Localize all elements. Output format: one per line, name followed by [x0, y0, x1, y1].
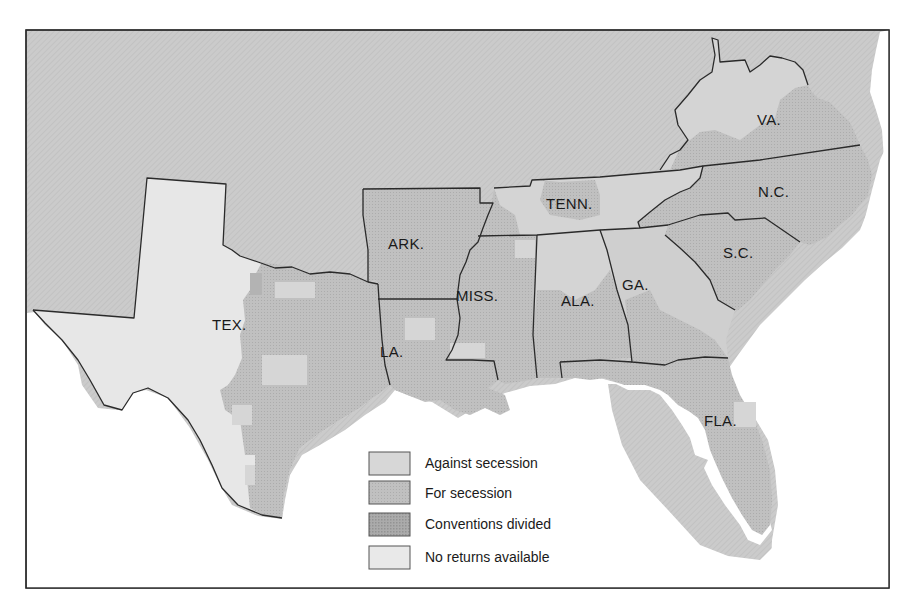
- label-tenn: TENN.: [546, 195, 593, 212]
- label-ala: ALA.: [561, 292, 595, 309]
- label-miss: MISS.: [456, 287, 498, 304]
- legend-swatch-no-returns: [369, 546, 410, 569]
- label-va: VA.: [757, 111, 781, 128]
- label-tex: TEX.: [212, 316, 247, 333]
- label-nc: N.C.: [758, 183, 789, 200]
- texas-against-patch: [245, 465, 255, 485]
- label-ga: GA.: [622, 276, 649, 293]
- label-sc: S.C.: [723, 244, 753, 261]
- legend-swatch-for: [369, 481, 410, 504]
- legend-swatch-against: [369, 452, 410, 475]
- louisiana-against-patch: [405, 318, 435, 340]
- legend-label-against: Against secession: [425, 455, 538, 471]
- label-la: LA.: [380, 343, 403, 360]
- secession-map: TEX. ARK. LA. MISS. ALA. TENN. GA. S.C. …: [0, 0, 917, 614]
- label-ark: ARK.: [388, 235, 424, 252]
- legend-label-divided: Conventions divided: [425, 516, 551, 532]
- legend-label-no-returns: No returns available: [425, 549, 550, 565]
- florida-against-patch: [734, 402, 756, 427]
- label-fla: FLA.: [704, 412, 737, 429]
- texas-against-patch: [262, 355, 307, 385]
- mississippi-against-patch: [515, 240, 535, 258]
- texas-against-patch: [275, 282, 315, 298]
- texas-divided-patch: [250, 273, 262, 295]
- texas-against-patch: [232, 405, 252, 425]
- mississippi-against-patch: [450, 343, 485, 358]
- legend-swatch-divided: [369, 513, 410, 536]
- legend-label-for: For secession: [425, 485, 512, 501]
